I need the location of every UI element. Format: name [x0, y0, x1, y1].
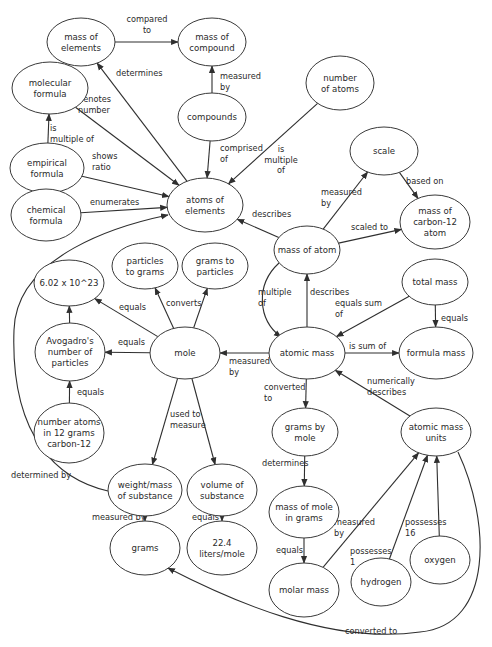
edge-arrow	[207, 141, 210, 178]
edge-label: equals	[77, 387, 104, 397]
edge-label: possesses16	[405, 517, 447, 538]
node-volume-of-substance: volume ofsubstance	[187, 464, 257, 516]
node-label: mole	[174, 348, 195, 358]
edge-mole-to-particles-to-grams: converts	[155, 288, 201, 329]
edge-label: convertedto	[264, 382, 305, 403]
edge-atomic-mass-to-formula-mass: is sum of	[345, 341, 399, 353]
node-label: formula mass	[407, 348, 466, 358]
edge-mass-of-atom-to-scale: measuredby	[321, 172, 368, 229]
node-label: compounds	[187, 112, 237, 122]
node-particles-to-grams: particlesto grams	[112, 243, 178, 289]
edge-empirical-formula-to-atoms-of-elements: showsratio	[82, 151, 169, 197]
edge-chemical-formula-to-atoms-of-elements: enumerates	[81, 197, 167, 213]
edge-label: numericallydescribes	[367, 376, 415, 397]
node-mole: mole	[150, 327, 220, 379]
edge-mass-of-elements-to-mass-of-compound: comparedto	[115, 14, 178, 42]
edge-arrow	[155, 288, 174, 329]
node-number-of-atoms: numberof atoms	[306, 56, 374, 110]
edge-arrow	[48, 114, 49, 143]
node-label: hydrogen	[361, 577, 402, 587]
edge-number-atoms-12g-to-avogadros-number: equals	[69, 381, 104, 403]
edge-label: equals	[118, 337, 145, 347]
node-label: empiricalformula	[27, 158, 67, 179]
node-grams-by-mole: grams bymole	[272, 408, 338, 456]
node-mass-of-mole-in-grams: mass of molein grams	[269, 486, 339, 538]
node-chemical-formula: chemicalformula	[11, 189, 81, 241]
node-molar-mass: molar mass	[269, 563, 339, 617]
node-hydrogen: hydrogen	[351, 558, 411, 606]
node-label: grams toparticles	[196, 256, 234, 277]
edge-mass-of-mole-in-grams-to-molar-mass: equals	[276, 538, 304, 563]
edge-grams-by-mole-to-mass-of-mole-in-grams: determines	[262, 456, 308, 486]
edge-label: describes	[252, 209, 291, 219]
edge-label: describes	[310, 287, 349, 297]
edge-arrow	[306, 379, 307, 408]
node-label: 6.02 x 10^23	[40, 278, 99, 288]
edge-mole-to-avogadro-value: equals	[95, 299, 158, 337]
edge-label: used tomeasure	[170, 409, 206, 430]
node-avogadro-value: 6.02 x 10^23	[34, 260, 104, 306]
node-label: grams	[131, 543, 159, 553]
edge-label: enumerates	[90, 197, 139, 207]
edge-label: equals	[276, 545, 303, 555]
node-total-mass: total mass	[402, 259, 468, 305]
node-empirical-formula: empiricalformula	[10, 143, 84, 193]
edge-label: determines	[262, 458, 308, 468]
edge-label: showsratio	[92, 151, 117, 172]
edge-label: based on	[406, 176, 444, 186]
edge-label: multipleof	[258, 287, 291, 308]
edge-compounds-to-mass-of-compound: measuredby	[212, 66, 261, 93]
node-label: total mass	[413, 277, 458, 287]
edge-arrow	[82, 176, 169, 196]
node-label: atoms ofelements	[185, 195, 225, 216]
edge-atomic-mass-to-mole: measuredby	[220, 353, 270, 377]
node-label: mass ofcompound	[189, 32, 234, 53]
node-number-atoms-12g: number atomsin 12 gramscarbon-12	[34, 403, 104, 463]
edge-arrow	[237, 219, 278, 237]
edge-arrow	[81, 207, 167, 212]
edge-label: measuredby	[220, 71, 261, 92]
node-atoms-of-elements: atoms ofelements	[167, 178, 243, 232]
node-label: atomic mass	[280, 348, 335, 358]
node-liters-per-mole: 22.4liters/mole	[187, 521, 257, 575]
edge-empirical-formula-to-molecular-formula: ismultiple of	[48, 114, 95, 144]
node-label: chemicalformula	[27, 205, 66, 226]
edge-atomic-mass-to-grams-by-mole: convertedto	[264, 379, 306, 408]
edge-label: determined by	[11, 470, 71, 480]
edge-mole-to-avogadros-number: equals	[105, 337, 150, 353]
node-molecular-formula: molecularformula	[12, 62, 88, 114]
edge-label: measuredby	[229, 356, 270, 377]
edge-label: converted to	[345, 626, 397, 636]
edge-label: scaled to	[351, 222, 388, 232]
node-compounds: compounds	[178, 93, 246, 141]
edge-label: ismultipleof	[264, 144, 297, 175]
edge-atomic-mass-units-to-atomic-mass: numericallydescribes	[335, 370, 415, 416]
node-label: numberof atoms	[321, 73, 359, 94]
node-label: particlesto grams	[126, 256, 165, 277]
edge-label: equals	[119, 302, 146, 312]
edge-arrow	[194, 288, 208, 327]
edge-compounds-to-atoms-of-elements: comprisedof	[207, 141, 263, 178]
node-label: oxygen	[424, 555, 455, 565]
edge-label: measuredby	[321, 187, 362, 208]
edge-label: equals	[441, 313, 468, 323]
node-grams-to-particles: grams toparticles	[182, 243, 248, 289]
edge-label: comprisedof	[220, 143, 263, 164]
node-weight-mass-of-substance: weight/massof substance	[108, 464, 182, 516]
edge-label: determines	[116, 68, 162, 78]
node-grams: grams	[110, 521, 180, 575]
edge-mass-of-atom-to-mass-of-carbon12-atom: scaled to	[339, 222, 402, 243]
node-mass-of-elements: mass ofelements	[47, 18, 115, 66]
edge-label: is sum of	[349, 341, 387, 351]
edge-total-mass-to-atomic-mass: equals sumof	[335, 296, 409, 336]
edge-oxygen-to-atomic-mass-units: possesses16	[405, 456, 447, 538]
node-oxygen: oxygen	[410, 536, 470, 584]
node-formula-mass: formula mass	[399, 327, 473, 379]
node-label: volume ofsubstance	[200, 480, 244, 501]
edge-label: comparedto	[126, 14, 167, 35]
node-label: molar mass	[279, 585, 330, 595]
edge-label: measuredby	[334, 517, 375, 538]
edge-scale-to-mass-of-carbon12-atom: based on	[399, 172, 443, 198]
node-atomic-mass: atomic mass	[269, 327, 345, 379]
edge-mass-of-atom-to-atomic-mass: multipleof	[258, 263, 291, 337]
